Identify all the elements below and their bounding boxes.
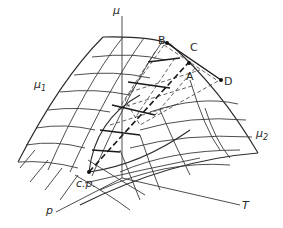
point-a bbox=[187, 61, 191, 65]
mu2-label: μ2 bbox=[255, 127, 268, 142]
lower-grid bbox=[20, 150, 200, 210]
diagram-canvas: μ μ1 μ2 B C A D c.p. p T bbox=[0, 0, 283, 228]
point-b bbox=[165, 41, 169, 45]
mu-axis-label: μ bbox=[112, 4, 120, 17]
surface-diagram: μ μ1 μ2 B C A D c.p. p T bbox=[0, 0, 283, 228]
label-a: A bbox=[186, 70, 194, 83]
tie-region bbox=[92, 45, 218, 152]
point-d bbox=[219, 78, 223, 82]
label-d: D bbox=[224, 75, 232, 88]
p-axis-label: p bbox=[45, 204, 53, 217]
point-cp bbox=[87, 170, 91, 174]
label-c: C bbox=[190, 41, 198, 54]
label-cp: c.p. bbox=[76, 177, 96, 190]
t-axis-label: T bbox=[242, 199, 250, 212]
mu1-label: μ1 bbox=[33, 78, 46, 93]
label-b: B bbox=[158, 34, 166, 47]
